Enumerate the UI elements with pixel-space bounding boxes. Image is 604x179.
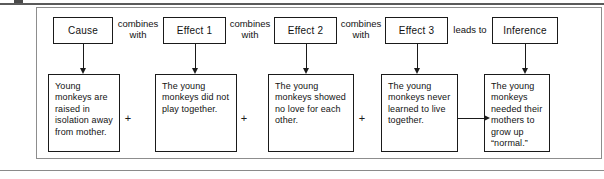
top-box-effect-1-label: Effect 1 bbox=[177, 25, 212, 36]
connector-label-3-line-1: combines bbox=[341, 18, 382, 29]
connector-label-2: combines with bbox=[226, 19, 274, 40]
arrow-effect-3-down bbox=[417, 44, 418, 69]
connector-label-1-line-1: combines bbox=[118, 18, 159, 29]
top-box-effect-2: Effect 2 bbox=[274, 17, 337, 44]
bottom-box-effect-2-text: The young monkeys showed no love for eac… bbox=[275, 81, 346, 125]
figure-canvas: Cause Effect 1 Effect 2 Effect 3 Inferen… bbox=[0, 0, 604, 179]
top-box-cause-label: Cause bbox=[68, 25, 98, 36]
plus-operator-1: + bbox=[122, 112, 134, 124]
bottom-box-effect-3-text: The young monkeys never learned to live … bbox=[388, 81, 450, 125]
connector-label-3-line-2: with bbox=[337, 30, 385, 41]
top-box-inference-label: Inference bbox=[503, 25, 547, 36]
connector-label-4: leads to bbox=[448, 25, 492, 36]
connector-label-3: combines with bbox=[337, 19, 385, 40]
arrow-effect-2-down bbox=[306, 44, 307, 69]
connector-label-2-line-1: combines bbox=[230, 18, 271, 29]
bottom-box-inference-text: The young monkeys needed their mothers t… bbox=[491, 81, 542, 148]
connector-label-4-line-1: leads to bbox=[453, 24, 486, 35]
plus-operator-2: + bbox=[238, 112, 250, 124]
plus-operator-3: + bbox=[356, 112, 368, 124]
top-box-effect-2-label: Effect 2 bbox=[288, 25, 323, 36]
arrow-cause-down bbox=[83, 44, 84, 69]
bottom-box-effect-1-text: The young monkeys did not play together. bbox=[162, 81, 229, 114]
connector-label-2-line-2: with bbox=[226, 30, 274, 41]
top-box-effect-1: Effect 1 bbox=[163, 17, 226, 44]
arrow-effect-3-to-inference bbox=[458, 118, 484, 119]
bottom-rule bbox=[0, 170, 604, 171]
top-box-effect-3: Effect 3 bbox=[385, 17, 448, 44]
arrow-effect-1-down bbox=[195, 44, 196, 69]
bottom-box-inference: The young monkeys needed their mothers t… bbox=[484, 74, 550, 152]
bottom-box-cause: Young monkeys are raised in isolation aw… bbox=[48, 74, 120, 152]
bottom-box-cause-text: Young monkeys are raised in isolation aw… bbox=[55, 81, 113, 137]
top-box-effect-3-label: Effect 3 bbox=[399, 25, 434, 36]
bottom-box-effect-1: The young monkeys did not play together. bbox=[155, 74, 237, 152]
top-box-inference: Inference bbox=[492, 17, 558, 44]
bottom-box-effect-3: The young monkeys never learned to live … bbox=[381, 74, 458, 152]
bottom-box-effect-2: The young monkeys showed no love for eac… bbox=[268, 74, 354, 152]
top-rule bbox=[0, 3, 604, 5]
connector-label-1-line-2: with bbox=[113, 30, 163, 41]
connector-label-1: combines with bbox=[113, 19, 163, 40]
top-box-cause: Cause bbox=[53, 17, 113, 44]
arrow-inference-down bbox=[525, 44, 526, 69]
